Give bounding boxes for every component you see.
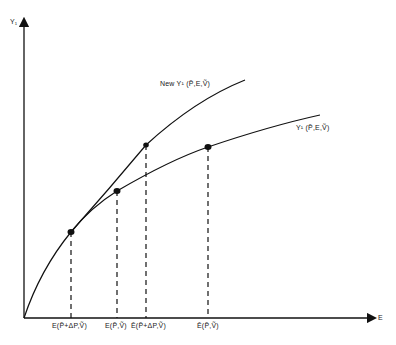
y-axis-label: Y₁ (10, 18, 17, 25)
curve-old (24, 115, 320, 318)
tick-label-3: Ē(P̃+ΔP,Ṽ) (131, 322, 166, 329)
tick-label-4: Ē(P̃,Ṽ) (197, 322, 219, 329)
tick-label-1: E(P̃+ΔP,Ṽ) (52, 322, 87, 329)
diagram-canvas (0, 0, 396, 345)
data-points (68, 143, 212, 236)
new-curve-label: New Y¹ (P̃,E,Ṽ) (160, 80, 210, 87)
x-axis-label: E (378, 314, 383, 321)
old-curve-label: Y¹ (P̃,E,Ṽ) (296, 124, 330, 131)
drop-lines (71, 145, 208, 318)
curve-new (71, 80, 245, 232)
tick-label-2: E(P̃,Ṽ) (105, 322, 127, 329)
